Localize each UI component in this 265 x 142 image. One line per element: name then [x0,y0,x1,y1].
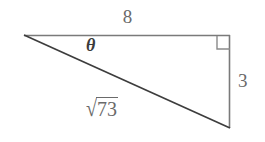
angle-label-theta: θ [86,36,95,54]
side-label-hypotenuse: √73 [86,97,118,119]
right-triangle-figure: 8 3 θ √73 [0,0,265,142]
side-label-adjacent: 8 [0,7,255,26]
radical-sign-icon: √ [86,96,97,119]
radical-expression: √73 [86,97,118,119]
right-angle-marker-icon [217,36,230,49]
radicand-value: 73 [96,97,118,119]
side-label-opposite: 3 [238,71,248,90]
triangle-side-hypotenuse [24,35,230,128]
